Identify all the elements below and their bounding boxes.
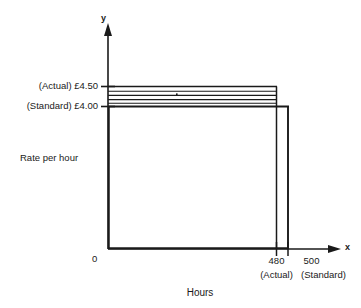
y-mark-label-standard-rate: (Standard) £4.00 <box>6 101 98 111</box>
rate-variance-band <box>108 91 277 103</box>
axis-group <box>104 23 341 253</box>
y-axis-letter: y <box>101 14 106 23</box>
actual-cost-box <box>108 87 277 250</box>
y-mark-label-actual-rate: (Actual) £4.50 <box>16 81 98 91</box>
scan-speck <box>176 93 178 95</box>
x-axis-arrowhead <box>328 245 341 253</box>
x-mark-number-standard: 500 <box>288 256 335 266</box>
x-mark-qualifier-standard: (Standard) <box>286 270 361 280</box>
x-axis-letter: x <box>345 243 350 252</box>
y-axis-arrowhead <box>104 23 112 36</box>
standard-cost-box <box>108 107 289 250</box>
origin-label: 0 <box>92 254 97 264</box>
rate-variance-figure: y x (Actual) £4.50 (Standard) £4.00 Rate… <box>0 0 361 308</box>
x-axis-title: Hours <box>160 288 240 298</box>
y-axis-title: Rate per hour <box>20 153 78 163</box>
